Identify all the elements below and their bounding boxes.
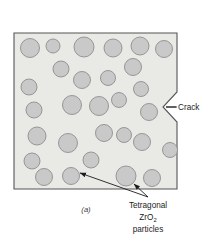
tetragonal-zro2-particle <box>26 102 42 118</box>
tetragonal-zro2-particle <box>74 72 91 89</box>
tetragonal-zro2-particle <box>90 97 109 116</box>
tetragonal-zro2-particle <box>59 134 78 153</box>
tetragonal-zro2-particle <box>96 125 113 142</box>
figure-caption: (a) <box>81 205 91 214</box>
tetragonal-zro2-particle <box>144 170 161 187</box>
tetragonal-zro2-particle <box>63 96 82 115</box>
tetragonal-zro2-particle <box>117 128 132 143</box>
particles-label-line1: Tetragonal <box>129 201 167 210</box>
zro2-formula-subscript: 2 <box>153 217 156 223</box>
figure-tetragonal-zro2-crack: Crack Tetragonal ZrO2 particles (a) <box>0 0 208 239</box>
tetragonal-zro2-particle <box>134 82 149 97</box>
tetragonal-zro2-particle <box>104 39 122 57</box>
tetragonal-zro2-particle <box>163 143 178 158</box>
tetragonal-zro2-particle <box>131 37 149 55</box>
tetragonal-zro2-particle <box>156 41 173 58</box>
tetragonal-zro2-particle <box>125 59 142 76</box>
tetragonal-zro2-particle <box>24 153 40 169</box>
particles-label-line2: ZrO2 <box>139 213 156 223</box>
tetragonal-zro2-particle <box>83 152 99 168</box>
zro2-formula-base: ZrO <box>139 213 153 222</box>
tetragonal-zro2-particle <box>21 39 40 58</box>
tetragonal-zro2-particle <box>101 71 116 86</box>
tetragonal-zro2-particle <box>21 79 37 95</box>
tetragonal-zro2-particle <box>112 93 127 108</box>
tetragonal-zro2-particle <box>28 127 46 145</box>
tetragonal-zro2-particle <box>116 166 136 186</box>
tetragonal-zro2-particle <box>63 168 80 185</box>
tetragonal-zro2-particle <box>36 169 53 186</box>
particles-label-line3: particles <box>133 225 164 234</box>
tetragonal-zro2-particle <box>74 37 94 57</box>
crack-label: Crack <box>178 103 200 112</box>
tetragonal-zro2-particle <box>53 61 69 77</box>
tetragonal-zro2-particle <box>141 104 158 121</box>
tetragonal-zro2-particle <box>134 134 151 151</box>
tetragonal-zro2-particle <box>46 39 60 53</box>
